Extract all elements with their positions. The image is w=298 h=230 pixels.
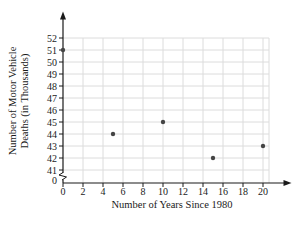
data-point xyxy=(261,144,265,148)
y-axis-arrow xyxy=(60,12,66,20)
y-tick-label: 42 xyxy=(47,153,57,164)
y-axis-title-line2: Deaths (in Thousands) xyxy=(19,53,31,148)
y-tick-label: 52 xyxy=(47,33,57,44)
x-tick-label: 18 xyxy=(238,186,248,197)
x-tick-label: 10 xyxy=(158,186,168,197)
data-point xyxy=(211,156,215,160)
y-tick-label: 41 xyxy=(47,165,57,176)
x-tick-label: 2 xyxy=(81,186,86,197)
y-tick-label: 51 xyxy=(47,45,57,56)
y-tick-label: 47 xyxy=(47,93,57,104)
x-tick-label: 14 xyxy=(198,186,208,197)
x-axis-arrow xyxy=(284,180,292,186)
y-tick-label: 44 xyxy=(47,129,57,140)
x-tick-label: 6 xyxy=(121,186,126,197)
grid-layer xyxy=(63,38,269,183)
data-point xyxy=(161,120,165,124)
x-tick-label: 0 xyxy=(61,186,66,197)
y-tick-label: 46 xyxy=(47,105,57,116)
y-tick-label: 49 xyxy=(47,69,57,80)
y-tick-label: 43 xyxy=(47,141,57,152)
x-tick-label: 12 xyxy=(178,186,188,197)
data-point xyxy=(111,132,115,136)
y-axis-title-line1: Number of Motor Vehicle xyxy=(7,46,18,155)
scatter-chart-figure: 0246810121416182041424344454647484950515… xyxy=(0,0,298,230)
x-tick-label: 16 xyxy=(218,186,228,197)
y-tick-label: 48 xyxy=(47,81,57,92)
x-tick-label: 4 xyxy=(101,186,106,197)
y-tick-label: 45 xyxy=(47,117,57,128)
x-axis-title: Number of Years Since 1980 xyxy=(111,199,232,210)
y-tick-label: 50 xyxy=(47,57,57,68)
x-tick-label: 20 xyxy=(258,186,268,197)
tick-label-layer: 0246810121416182041424344454647484950515… xyxy=(47,33,268,198)
x-tick-label: 8 xyxy=(141,186,146,197)
scatter-chart: 0246810121416182041424344454647484950515… xyxy=(0,0,298,230)
data-point xyxy=(61,48,65,52)
y-origin-label: 0 xyxy=(52,175,57,186)
